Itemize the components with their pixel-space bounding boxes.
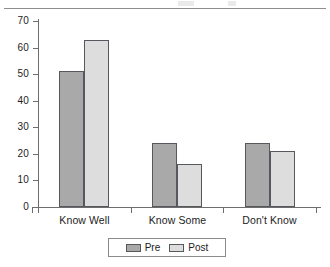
y-axis-tick bbox=[33, 21, 38, 22]
x-axis-category-label: Know Well bbox=[38, 214, 131, 226]
x-axis-category-label: Don't Know bbox=[223, 214, 316, 226]
y-axis-label: 40 bbox=[3, 96, 29, 106]
y-axis-tick bbox=[33, 101, 38, 102]
y-axis-label: 50 bbox=[3, 69, 29, 79]
y-axis-tick bbox=[33, 127, 38, 128]
y-axis-label: 60 bbox=[3, 43, 29, 53]
y-axis-line bbox=[38, 19, 39, 208]
y-axis-tick bbox=[33, 180, 38, 181]
pre-swatch-icon bbox=[126, 244, 141, 252]
bar-chart: 706050403020100 Know WellKnow SomeDon't … bbox=[0, 0, 330, 267]
legend-entry-pre: Pre bbox=[126, 243, 161, 253]
x-axis-line bbox=[32, 207, 321, 208]
x-axis-tick bbox=[32, 208, 33, 213]
x-axis-tick bbox=[223, 208, 224, 213]
x-axis-tick bbox=[316, 208, 317, 213]
bar-post-know-some bbox=[177, 164, 202, 207]
legend-label: Post bbox=[188, 243, 208, 253]
x-axis-tick bbox=[38, 208, 39, 213]
x-axis-tick bbox=[131, 208, 132, 213]
bar-post-know-well bbox=[84, 40, 109, 207]
y-axis-label: 20 bbox=[3, 149, 29, 159]
y-axis-label: 30 bbox=[3, 122, 29, 132]
y-axis-tick bbox=[33, 154, 38, 155]
legend-label: Pre bbox=[145, 243, 161, 253]
y-axis-tick bbox=[33, 74, 38, 75]
y-axis-label: 10 bbox=[3, 175, 29, 185]
y-axis-label: 70 bbox=[3, 16, 29, 26]
y-axis-tick bbox=[33, 48, 38, 49]
bar-pre-don-t-know bbox=[245, 143, 270, 207]
bar-pre-know-well bbox=[59, 71, 84, 207]
legend-entry-post: Post bbox=[169, 243, 208, 253]
bar-post-don-t-know bbox=[270, 151, 295, 207]
bar-pre-know-some bbox=[152, 143, 177, 207]
post-swatch-icon bbox=[169, 244, 184, 252]
y-axis-label: 0 bbox=[3, 202, 29, 212]
x-axis-category-label: Know Some bbox=[131, 214, 224, 226]
chart-legend: PrePost bbox=[108, 238, 226, 257]
